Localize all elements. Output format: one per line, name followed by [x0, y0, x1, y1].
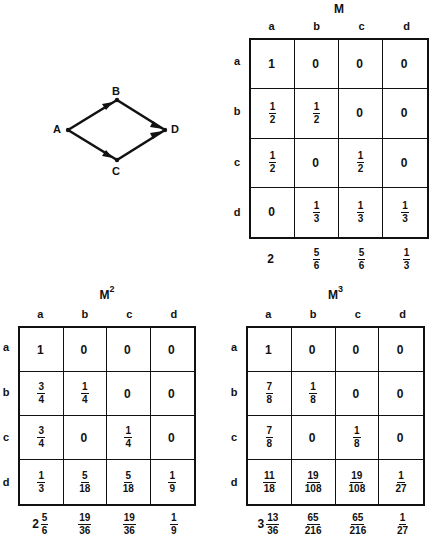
cell-b-d: 0: [383, 89, 427, 138]
whole-number: 0: [309, 431, 316, 445]
denominator: 18: [123, 483, 134, 494]
numerator: 1: [399, 513, 407, 525]
cell-b-a: 34: [20, 372, 64, 416]
denominator: 6: [42, 525, 48, 536]
node-label-d: D: [171, 123, 179, 135]
cell-d-d: 13: [383, 188, 427, 237]
row-header-a: a: [231, 55, 243, 67]
fraction: 34: [37, 382, 45, 405]
cell-d-c: 13: [339, 188, 383, 237]
numerator: 3: [37, 382, 45, 394]
denominator: 18: [264, 483, 275, 494]
whole-number: 0: [80, 431, 87, 445]
numerator: 5: [41, 513, 49, 525]
row-header-a: a: [0, 341, 12, 353]
denominator: 36: [124, 525, 135, 536]
row-header-c: c: [231, 156, 243, 168]
numerator: 1: [168, 471, 176, 483]
denominator: 2: [358, 163, 364, 174]
fraction: 34: [37, 426, 45, 449]
fraction: 1118: [263, 471, 276, 494]
denominator: 6: [314, 260, 320, 271]
cell-c-b: 0: [295, 139, 339, 188]
column-header-d: d: [384, 20, 429, 32]
whole-number: 2: [32, 517, 39, 531]
numerator: 1: [313, 102, 321, 114]
cell-b-a: 12: [251, 89, 295, 138]
matrix-title: M3: [246, 286, 425, 302]
fraction: 14: [81, 382, 89, 405]
denominator: 3: [402, 213, 408, 224]
fraction: 13: [401, 201, 409, 224]
cell-a-c: 0: [336, 328, 380, 372]
numerator: 1: [309, 382, 317, 394]
whole-number: 0: [353, 387, 360, 401]
numerator: 1: [269, 102, 277, 114]
cell-b-b: 12: [295, 89, 339, 138]
whole-number: 0: [356, 57, 363, 71]
numerator: 19: [350, 471, 363, 483]
denominator: 8: [267, 438, 273, 449]
cell-c-d: 0: [151, 416, 195, 460]
whole-number: 0: [401, 57, 408, 71]
cell-c-a: 78: [248, 416, 292, 460]
fraction: 1936: [78, 513, 91, 536]
column-header-b: b: [294, 20, 339, 32]
numerator: 1: [401, 201, 409, 213]
whole-number: 2: [267, 252, 274, 266]
fraction: 19: [170, 513, 178, 536]
denominator: 2: [270, 114, 276, 125]
fraction: 12: [269, 102, 277, 125]
row-header-a: a: [228, 341, 240, 353]
column-header-c: c: [339, 20, 384, 32]
numerator: 11: [263, 471, 276, 483]
denominator: 216: [305, 525, 322, 536]
denominator: 3: [314, 213, 320, 224]
cell-a-a: 1: [251, 40, 295, 89]
fraction: 12: [269, 151, 277, 174]
denominator: 2: [270, 163, 276, 174]
row-header-d: d: [231, 206, 243, 218]
cell-a-d: 0: [383, 40, 427, 89]
numerator: 5: [358, 248, 366, 260]
cell-c-d: 0: [379, 416, 423, 460]
denominator: 27: [397, 525, 408, 536]
column-header-c: c: [336, 308, 381, 320]
cell-b-b: 18: [292, 372, 336, 416]
cell-c-a: 34: [20, 416, 64, 460]
row-header-d: d: [0, 476, 12, 488]
fraction: 127: [397, 513, 408, 536]
column-sum-c: 1936: [107, 511, 152, 537]
fraction: 78: [266, 382, 274, 405]
cell-a-a: 1: [20, 328, 64, 372]
node-label-b: B: [112, 85, 120, 97]
cell-c-b: 0: [292, 416, 336, 460]
column-header-c: c: [107, 308, 152, 320]
denominator: 6: [359, 260, 365, 271]
whole-number: 0: [124, 343, 131, 357]
column-header-d: d: [380, 308, 425, 320]
whole-number: 0: [401, 156, 408, 170]
whole-number: 0: [80, 343, 87, 357]
denominator: 4: [38, 394, 44, 405]
cell-c-c: 18: [336, 416, 380, 460]
cell-d-b: 518: [64, 460, 108, 504]
fraction: 518: [123, 471, 134, 494]
cell-b-c: 0: [107, 372, 151, 416]
column-header-a: a: [18, 308, 63, 320]
cell-d-c: 518: [107, 460, 151, 504]
cell-a-b: 0: [295, 40, 339, 89]
fraction: 65216: [305, 513, 322, 536]
cell-b-d: 0: [151, 372, 195, 416]
fraction: 13: [313, 201, 321, 224]
whole-number: 3: [257, 517, 264, 531]
denominator: 9: [171, 525, 177, 536]
node-label-c: C: [112, 165, 120, 177]
numerator: 19: [123, 513, 136, 525]
cell-a-b: 0: [64, 328, 108, 372]
column-header-b: b: [63, 308, 108, 320]
fraction: 19108: [305, 471, 322, 494]
whole-number: 0: [356, 106, 363, 120]
column-sum-d: 13: [384, 246, 429, 272]
numerator: 3: [37, 426, 45, 438]
